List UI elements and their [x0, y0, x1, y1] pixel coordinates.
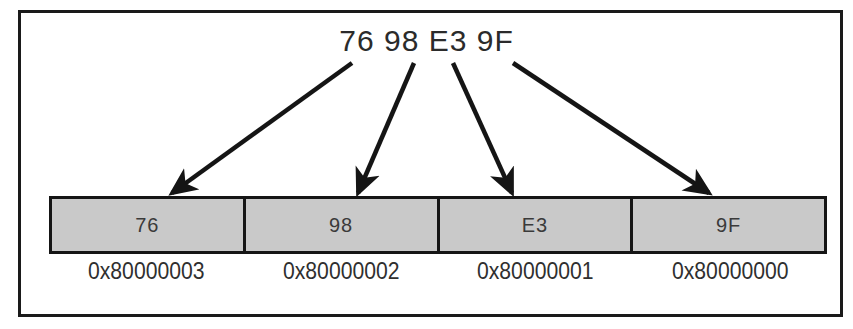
memory-cell: 98: [246, 199, 440, 251]
memory-cell-strip: 7698E39F: [49, 196, 827, 254]
endianness-diagram: 76 98 E3 9F 7698E39F 0x800000030x8000000…: [0, 0, 853, 329]
address-label-row: 0x800000030x800000020x800000010x80000000: [49, 258, 827, 292]
memory-address-label: 0x80000003: [57, 258, 236, 292]
memory-cell: E3: [440, 199, 634, 251]
memory-address-label: 0x80000001: [446, 258, 625, 292]
memory-address-label: 0x80000002: [251, 258, 430, 292]
memory-cell: 9F: [633, 199, 824, 251]
memory-address-label: 0x80000000: [640, 258, 819, 292]
multibyte-value-label: 76 98 E3 9F: [0, 24, 853, 58]
memory-cell: 76: [52, 199, 246, 251]
